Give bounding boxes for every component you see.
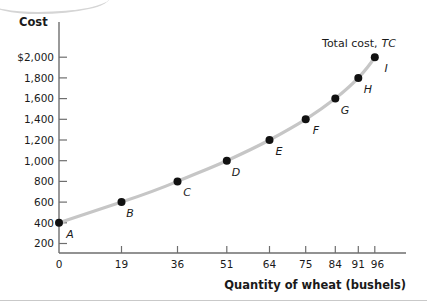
point-label-G: G bbox=[341, 104, 350, 117]
ytick-label-800: 800 bbox=[34, 175, 54, 187]
point-label-D: D bbox=[232, 166, 240, 179]
point-label-A: A bbox=[65, 228, 74, 241]
x-axis-title: Quantity of wheat (bushels) bbox=[224, 278, 406, 292]
xtick-label-19: 19 bbox=[115, 258, 128, 270]
xtick-label-96: 96 bbox=[371, 258, 385, 270]
total-cost-curve-figure: 200 400 600 800 1,000 1,200 1,400 1,600 … bbox=[0, 0, 427, 306]
datapoint-E bbox=[266, 136, 274, 144]
xtick-label-0: 0 bbox=[56, 258, 63, 270]
chart-canvas: 200 400 600 800 1,000 1,200 1,400 1,600 … bbox=[0, 0, 427, 306]
y-axis-ticks bbox=[59, 57, 67, 243]
xtick-label-84: 84 bbox=[329, 258, 343, 270]
datapoint-F bbox=[302, 115, 310, 123]
point-label-E: E bbox=[276, 145, 283, 158]
point-label-I: I bbox=[384, 62, 387, 75]
point-label-F: F bbox=[313, 124, 320, 137]
page-bottom-rule bbox=[0, 300, 427, 301]
xtick-label-51: 51 bbox=[220, 258, 233, 270]
curve-label-text: Total cost, bbox=[321, 37, 378, 50]
point-label-H: H bbox=[364, 83, 372, 96]
curve-label-symbol: TC bbox=[382, 37, 397, 50]
datapoint-B bbox=[118, 198, 126, 206]
ytick-label-2000: $2,000 bbox=[17, 51, 54, 63]
xtick-label-91: 91 bbox=[352, 258, 365, 270]
ytick-label-1800: 1,800 bbox=[24, 72, 54, 84]
ytick-label-1200: 1,200 bbox=[24, 134, 54, 146]
ytick-label-600: 600 bbox=[34, 196, 54, 208]
ytick-label-200: 200 bbox=[34, 237, 54, 249]
datapoint-H bbox=[354, 74, 362, 82]
datapoint-G bbox=[331, 95, 339, 103]
ytick-label-1400: 1,400 bbox=[24, 113, 54, 125]
xtick-label-75: 75 bbox=[299, 258, 312, 270]
y-axis-title: Cost bbox=[19, 15, 48, 29]
datapoint-D bbox=[223, 157, 231, 165]
point-label-C: C bbox=[183, 186, 191, 199]
ytick-label-1000: 1,000 bbox=[24, 155, 54, 167]
curve-label-total-cost: Total cost,TC bbox=[321, 37, 396, 50]
point-label-B: B bbox=[126, 207, 134, 220]
datapoint-A bbox=[55, 219, 63, 227]
ytick-label-400: 400 bbox=[34, 217, 54, 229]
datapoint-I bbox=[371, 53, 379, 61]
xtick-label-36: 36 bbox=[171, 258, 185, 270]
xtick-label-64: 64 bbox=[263, 258, 277, 270]
datapoint-C bbox=[174, 177, 182, 185]
total-cost-curve bbox=[59, 57, 375, 223]
x-axis-ticks bbox=[122, 246, 375, 253]
ytick-label-1600: 1,600 bbox=[24, 92, 54, 104]
